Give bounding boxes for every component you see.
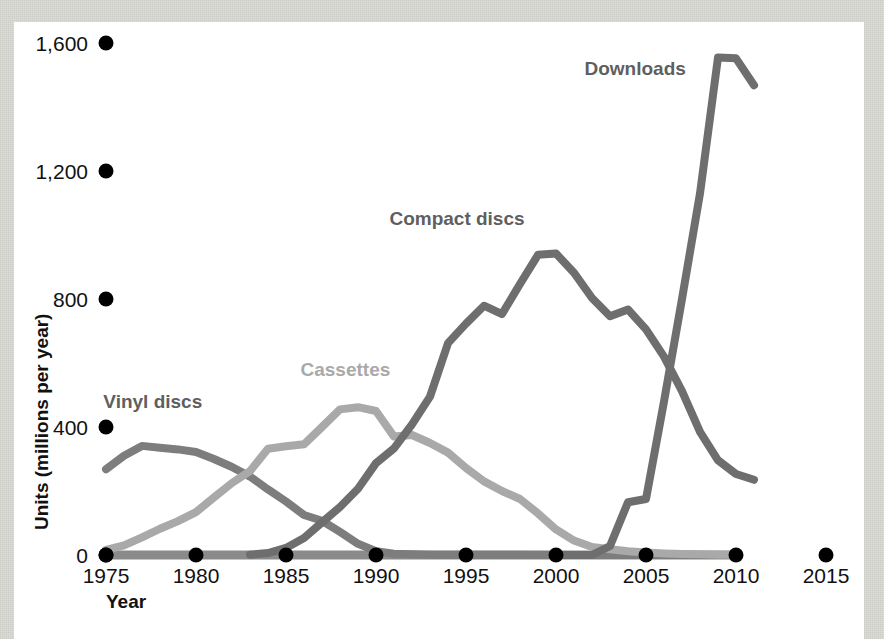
series-line-downloads — [556, 57, 754, 555]
y-tick-dot — [99, 420, 114, 435]
x-tick-label: 1985 — [263, 564, 310, 587]
y-tick-dot — [99, 36, 114, 51]
x-tick-label: 1980 — [173, 564, 220, 587]
x-tick-dot — [369, 548, 384, 563]
y-tick-label: 1,600 — [35, 32, 88, 55]
y-axis-title: Units (millions per year) — [31, 314, 52, 530]
x-tick-dot — [639, 548, 654, 563]
x-axis-title: Year — [106, 591, 147, 612]
series-label-vinyl-discs: Vinyl discs — [103, 391, 202, 412]
x-tick-dot — [549, 548, 564, 563]
y-tick-label: 800 — [53, 288, 88, 311]
x-tick-label-group: 197519801985199019952000200520102015 — [83, 564, 850, 587]
series-label-downloads: Downloads — [585, 58, 686, 79]
chart-canvas: 04008001,2001,600 1975198019851990199520… — [0, 0, 884, 639]
line-chart-figure: 04008001,2001,600 1975198019851990199520… — [0, 0, 884, 639]
y-tick-dot — [99, 292, 114, 307]
x-tick-label: 2015 — [803, 564, 850, 587]
x-tick-label: 2010 — [713, 564, 760, 587]
x-tick-label: 2000 — [533, 564, 580, 587]
x-tick-dot — [99, 548, 114, 563]
y-tick-label: 1,200 — [35, 160, 88, 183]
series-label-cassettes: Cassettes — [301, 359, 391, 380]
x-tick-label: 1975 — [83, 564, 130, 587]
series-label-group: Vinyl discsCassettesCompact discsDownloa… — [103, 58, 686, 412]
x-tick-dot — [819, 548, 834, 563]
x-tick-dot — [459, 548, 474, 563]
x-tick-label: 1995 — [443, 564, 490, 587]
series-line-cassettes — [106, 407, 736, 555]
x-tick-dot — [729, 548, 744, 563]
y-tick-dot-group — [99, 36, 114, 563]
y-tick-dot — [99, 164, 114, 179]
x-tick-dot — [279, 548, 294, 563]
y-tick-label: 400 — [53, 416, 88, 439]
series-label-compact-discs: Compact discs — [389, 208, 524, 229]
x-tick-label: 1990 — [353, 564, 400, 587]
series-layer — [106, 57, 754, 555]
x-tick-dot — [189, 548, 204, 563]
x-tick-label: 2005 — [623, 564, 670, 587]
